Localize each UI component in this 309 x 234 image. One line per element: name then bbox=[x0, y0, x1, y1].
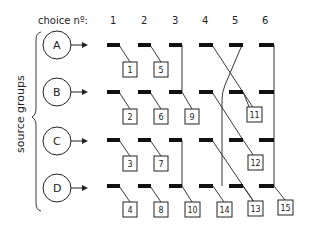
arrow-c-head bbox=[82, 138, 88, 144]
box-12: 12 bbox=[248, 155, 263, 170]
box-4: 4 bbox=[123, 202, 137, 217]
svg-text:2: 2 bbox=[127, 113, 132, 122]
choice-header-label: choice nº: bbox=[38, 15, 88, 26]
choice-number-1: 1 bbox=[110, 15, 116, 26]
svg-text:9: 9 bbox=[189, 113, 194, 122]
choice-diagram: choice nº: 1 2 3 4 5 6 source groups A B… bbox=[0, 0, 309, 234]
svg-text:6: 6 bbox=[158, 113, 163, 122]
box-14: 14 bbox=[217, 202, 232, 217]
group-c-label: C bbox=[53, 135, 61, 148]
box-11: 11 bbox=[247, 107, 262, 122]
group-c: C bbox=[43, 127, 88, 155]
choice-number-2: 2 bbox=[141, 15, 147, 26]
group-b-label: B bbox=[53, 86, 61, 99]
arrow-a-head bbox=[82, 42, 88, 48]
svg-text:7: 7 bbox=[158, 160, 163, 169]
box-8: 8 bbox=[154, 202, 168, 217]
svg-text:4: 4 bbox=[127, 206, 132, 215]
svg-text:5: 5 bbox=[158, 66, 163, 75]
choice-number-4: 4 bbox=[202, 15, 208, 26]
source-groups-label: source groups bbox=[14, 75, 27, 153]
connectors bbox=[119, 45, 285, 202]
svg-text:14: 14 bbox=[219, 206, 229, 215]
group-d: D bbox=[43, 174, 88, 202]
box-9: 9 bbox=[185, 109, 199, 124]
choice-number-3: 3 bbox=[172, 15, 178, 26]
group-b: B bbox=[43, 78, 88, 106]
box-15: 15 bbox=[278, 200, 293, 215]
group-a-label: A bbox=[53, 39, 61, 52]
group-brace bbox=[32, 32, 41, 211]
svg-text:8: 8 bbox=[158, 206, 163, 215]
choice-number-5: 5 bbox=[232, 15, 238, 26]
box-13: 13 bbox=[248, 201, 263, 216]
group-a: A bbox=[43, 31, 88, 59]
box-3: 3 bbox=[123, 156, 137, 171]
svg-text:11: 11 bbox=[249, 111, 259, 120]
box-1: 1 bbox=[123, 62, 137, 77]
box-5: 5 bbox=[154, 62, 168, 77]
svg-text:1: 1 bbox=[127, 66, 132, 75]
box-10: 10 bbox=[185, 202, 200, 217]
svg-text:12: 12 bbox=[250, 159, 260, 168]
box-2: 2 bbox=[123, 109, 137, 124]
group-d-label: D bbox=[53, 182, 61, 195]
svg-text:13: 13 bbox=[250, 205, 260, 214]
choice-number-6: 6 bbox=[262, 15, 268, 26]
svg-text:3: 3 bbox=[127, 160, 132, 169]
box-7: 7 bbox=[154, 156, 168, 171]
svg-text:10: 10 bbox=[187, 206, 197, 215]
box-6: 6 bbox=[154, 109, 168, 124]
svg-text:15: 15 bbox=[280, 204, 290, 213]
arrow-d-head bbox=[82, 185, 88, 191]
arrow-b-head bbox=[82, 89, 88, 95]
